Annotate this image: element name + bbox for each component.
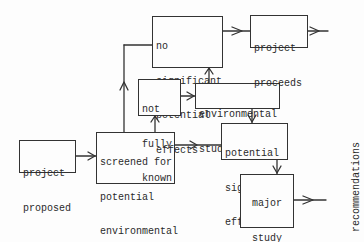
node-project-proposed: project proposed <box>19 140 76 173</box>
node-text-line: no <box>156 41 219 53</box>
node-text-line: proposed <box>23 203 72 215</box>
node-text-line: known <box>142 173 177 185</box>
node-text-line: study <box>244 233 290 242</box>
node-text-line: environmental <box>199 109 276 121</box>
node-no-significant-effects: no significant potential effects <box>152 16 223 68</box>
node-text-line: major <box>244 198 290 210</box>
output-text-line: recommendations <box>351 142 362 232</box>
node-text-line: environmental <box>100 226 171 238</box>
node-text-line: project <box>254 43 304 55</box>
node-text-line: potential <box>225 148 284 160</box>
node-text-line: fully <box>142 139 177 151</box>
node-potential-significant-effects: potential significant effects <box>221 123 288 160</box>
output-recommendations: recommendations etc <box>329 142 364 232</box>
node-major-study-group: major study group formed <box>240 174 294 228</box>
node-not-fully-known: not fully known <box>138 79 181 116</box>
node-text-line: proceeds <box>254 78 304 90</box>
node-text-line: project <box>23 168 72 180</box>
node-project-proceeds: project proceeds <box>250 15 308 48</box>
node-text-line: not <box>142 104 177 116</box>
